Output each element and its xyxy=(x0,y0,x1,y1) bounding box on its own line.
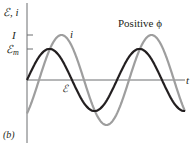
curve-label-emf: ℰ xyxy=(62,83,69,94)
phasor-waveform-figure: ℰ, i I ℰm i ℰ t Positive ϕ (b) xyxy=(0,0,196,145)
x-axis-label: t xyxy=(186,74,190,86)
y-axis-label: ℰ, i xyxy=(3,6,19,18)
tick-label-I: I xyxy=(11,29,17,41)
annotation-positive-phi: Positive ϕ xyxy=(118,17,162,29)
panel-label: (b) xyxy=(3,129,15,141)
tick-label-Em: ℰm xyxy=(6,43,19,57)
curve-label-i: i xyxy=(70,28,73,40)
